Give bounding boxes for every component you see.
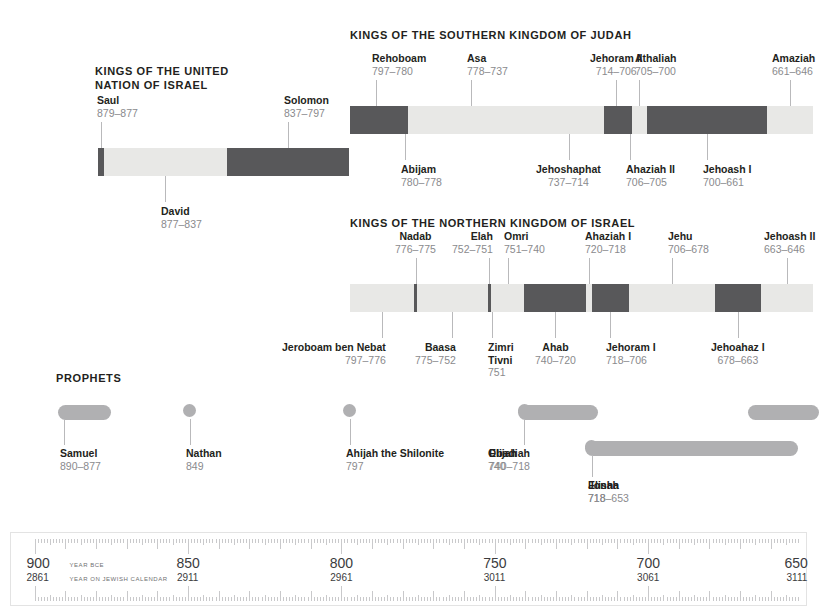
leader-line xyxy=(524,419,525,445)
tick-mark xyxy=(617,539,618,549)
tick-mark xyxy=(700,597,701,601)
tick-mark xyxy=(320,597,321,601)
tick-mark xyxy=(127,539,128,549)
tick-mark xyxy=(765,539,766,543)
tick-mark xyxy=(522,597,523,601)
prophet-name: Ahijah the Shilonite xyxy=(346,447,444,460)
tick-mark xyxy=(44,539,45,543)
axis-panel: 9002861YEAR BCEYEAR ON JEWISH CALENDAR85… xyxy=(10,532,807,606)
king-callout: Omri751–740 xyxy=(504,230,545,255)
tick-mark xyxy=(611,539,612,543)
tick-mark xyxy=(191,597,192,601)
tick-mark xyxy=(670,597,671,601)
section-title-judah: KINGS OF THE SOUTHERN KINGDOM OF JUDAH xyxy=(350,28,632,42)
tick-mark xyxy=(574,539,575,543)
tick-mark xyxy=(185,597,186,601)
tick-mark xyxy=(682,597,683,601)
tick-mark xyxy=(449,595,450,601)
axis-year-bce: 900 xyxy=(27,555,50,571)
tick-mark xyxy=(639,539,640,543)
tick-mark xyxy=(148,597,149,601)
leader-line xyxy=(64,419,65,445)
tick-mark xyxy=(762,597,763,601)
tick-mark xyxy=(489,539,490,543)
tick-mark xyxy=(697,539,698,543)
tick-mark xyxy=(243,597,244,601)
tick-mark xyxy=(237,597,238,601)
king-callout: Athaliah705–700 xyxy=(635,52,676,77)
tick-mark xyxy=(700,539,701,543)
tick-mark xyxy=(145,597,146,601)
tick-mark xyxy=(151,539,152,543)
tick-mark xyxy=(277,597,278,601)
tick-mark xyxy=(142,595,143,601)
tick-mark xyxy=(691,539,692,543)
tick-mark xyxy=(734,539,735,543)
king-callout: Jehoahaz I678–663 xyxy=(711,341,765,366)
king-name: David xyxy=(161,205,202,218)
tick-mark xyxy=(611,597,612,601)
tick-mark xyxy=(120,597,121,601)
king-years: 751 xyxy=(488,366,514,379)
tick-mark xyxy=(415,539,416,543)
tick-mark xyxy=(657,597,658,601)
prophet-span xyxy=(585,441,797,456)
tick-mark xyxy=(111,595,112,601)
tick-mark xyxy=(216,597,217,601)
reign-segment xyxy=(491,284,525,312)
tick-mark xyxy=(277,539,278,543)
leader-line xyxy=(382,312,383,338)
tick-mark xyxy=(397,597,398,601)
leader-line xyxy=(616,80,617,106)
tick-mark xyxy=(176,539,177,543)
tick-mark xyxy=(660,597,661,601)
tick-mark xyxy=(706,539,707,543)
tick-mark xyxy=(231,597,232,601)
tick-mark xyxy=(596,597,597,601)
tick-mark xyxy=(84,539,85,543)
king-callout: Jehoash I700–661 xyxy=(703,163,751,188)
tick-mark xyxy=(280,591,281,601)
tick-mark xyxy=(148,539,149,543)
tick-mark xyxy=(87,597,88,601)
tick-mark xyxy=(777,539,778,543)
tick-mark xyxy=(709,591,710,601)
tick-mark xyxy=(470,597,471,601)
tick-mark xyxy=(636,597,637,601)
tick-mark xyxy=(587,539,588,549)
tick-mark xyxy=(697,597,698,601)
tick-mark xyxy=(501,539,502,543)
king-callout: Abijam780–778 xyxy=(401,163,442,188)
tick-mark xyxy=(114,597,115,601)
tick-mark xyxy=(654,539,655,543)
tick-mark xyxy=(516,539,517,543)
king-name: Jehoram I xyxy=(606,341,656,354)
tick-mark xyxy=(633,539,634,545)
king-callout: Nadab776–775 xyxy=(395,230,436,255)
leader-line xyxy=(790,80,791,106)
tick-mark xyxy=(47,539,48,543)
leader-line xyxy=(416,258,417,284)
tick-mark xyxy=(691,597,692,601)
tick-mark xyxy=(755,539,756,545)
tick-mark xyxy=(571,539,572,545)
section-title-israel: KINGS OF THE NORTHERN KINGDOM OF ISRAEL xyxy=(350,216,635,230)
tick-mark xyxy=(731,539,732,543)
reign-segment xyxy=(629,284,715,312)
tick-mark xyxy=(130,539,131,543)
leader-line xyxy=(452,312,453,338)
tick-mark xyxy=(246,597,247,601)
axis-year-jewish: 3061 xyxy=(637,572,659,584)
tick-mark xyxy=(596,539,597,543)
prophet-years: 849 xyxy=(186,460,222,473)
tick-mark xyxy=(713,597,714,601)
tick-mark xyxy=(436,597,437,601)
tick-mark xyxy=(228,539,229,543)
tick-mark xyxy=(209,597,210,601)
tick-mark xyxy=(390,597,391,601)
king-name: Jehoash I xyxy=(703,163,751,176)
tick-mark xyxy=(706,597,707,601)
leader-line xyxy=(165,176,166,202)
tick-mark xyxy=(660,539,661,543)
tick-mark xyxy=(725,595,726,601)
